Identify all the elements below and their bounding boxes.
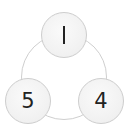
node-top-label: 1 — [63, 26, 65, 44]
node-bottom-right: 4 — [78, 78, 124, 124]
node-top: 1 — [41, 12, 87, 58]
node-bottom-left: 5 — [5, 78, 51, 124]
node-bottom-left-label: 5 — [21, 91, 34, 112]
node-bottom-right-label: 4 — [94, 91, 107, 112]
